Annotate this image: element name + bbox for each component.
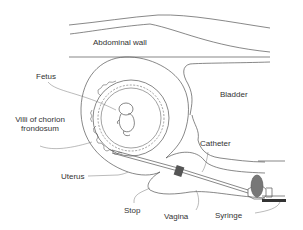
label-syringe: Syringe	[215, 211, 242, 220]
chorion-ring	[91, 80, 170, 156]
stop-shape	[174, 165, 185, 177]
uterus-shape	[81, 57, 265, 198]
label-fetus: Fetus	[36, 72, 56, 81]
label-stop: Stop	[124, 206, 140, 215]
label-abdominal-wall: Abdominal wall	[93, 38, 147, 47]
label-villi-line1: Villi of chorion	[15, 115, 65, 124]
fetus-shape	[117, 103, 134, 136]
label-bladder: Bladder	[220, 90, 248, 99]
label-catheter: Catheter	[200, 139, 231, 148]
label-uterus: Uterus	[61, 172, 85, 181]
label-vagina: Vagina	[164, 212, 188, 221]
label-villi-of-chorion-frondosum: Villi of chorion frondosum	[14, 115, 66, 133]
abdominal-wall-shape	[69, 15, 270, 57]
cvs-diagram: Abdominal wall Fetus Bladder Villi of ch…	[0, 0, 303, 230]
bladder-shape	[184, 62, 270, 140]
syringe-shape	[248, 161, 286, 202]
label-villi-line2: frondosum	[21, 124, 59, 133]
